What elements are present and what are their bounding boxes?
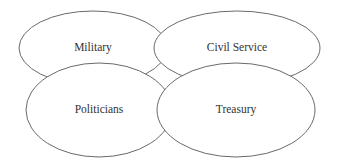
civil-service-label: Civil Service	[207, 41, 267, 53]
treasury-label: Treasury	[216, 103, 257, 116]
ellipse-treasury: Treasury	[157, 63, 315, 157]
diagram-canvas: Military Civil Service Politicians Treas…	[0, 0, 337, 162]
ellipse-politicians: Politicians	[26, 63, 172, 157]
military-label: Military	[74, 41, 112, 54]
politicians-label: Politicians	[75, 103, 124, 115]
